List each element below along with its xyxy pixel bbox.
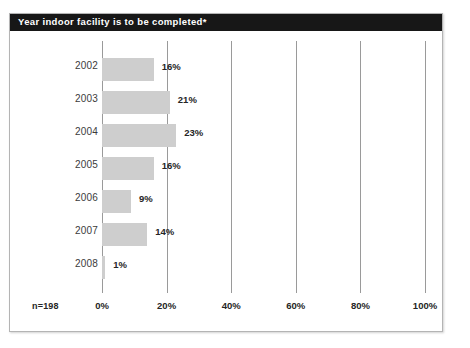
- page-title: Year indoor facility is to be completed*: [18, 16, 207, 27]
- bar: [102, 91, 170, 114]
- category-label: 2008: [10, 258, 98, 269]
- bar: [102, 223, 147, 246]
- bar-value-label: 9%: [139, 193, 153, 204]
- category-label: 2007: [10, 225, 98, 236]
- sample-size-label: n=198: [32, 301, 59, 311]
- category-label: 2004: [10, 126, 98, 137]
- chart-figure: Year indoor facility is to be completed*…: [9, 13, 443, 332]
- bar: [102, 190, 131, 213]
- x-tick-label: 40%: [222, 300, 241, 311]
- bar: [102, 124, 176, 147]
- bar: [102, 256, 105, 279]
- bar-row: 20069%: [10, 185, 443, 218]
- bar-value-label: 21%: [178, 94, 197, 105]
- bar-value-label: 16%: [162, 61, 181, 72]
- x-tick-label: 100%: [413, 300, 437, 311]
- x-tick-label: 80%: [351, 300, 370, 311]
- bar: [102, 58, 154, 81]
- bar-row: 20081%: [10, 251, 443, 284]
- bar-value-label: 16%: [162, 160, 181, 171]
- bar-row: 200216%: [10, 53, 443, 86]
- bar-value-label: 14%: [155, 226, 174, 237]
- category-label: 2002: [10, 60, 98, 71]
- bar-value-label: 23%: [184, 127, 203, 138]
- x-tick-label: 60%: [286, 300, 305, 311]
- x-tick-label: 20%: [157, 300, 176, 311]
- category-label: 2006: [10, 192, 98, 203]
- bar-value-label: 1%: [113, 259, 127, 270]
- category-label: 2005: [10, 159, 98, 170]
- category-label: 2003: [10, 93, 98, 104]
- bar: [102, 157, 154, 180]
- chart-title-bar: Year indoor facility is to be completed*: [10, 14, 443, 31]
- bar-row: 200516%: [10, 152, 443, 185]
- plot-area: 200216%200321%200423%200516%20069%200714…: [10, 31, 443, 332]
- bar-row: 200321%: [10, 86, 443, 119]
- bar-row: 200714%: [10, 218, 443, 251]
- x-tick-label: 0%: [95, 300, 109, 311]
- bar-row: 200423%: [10, 119, 443, 152]
